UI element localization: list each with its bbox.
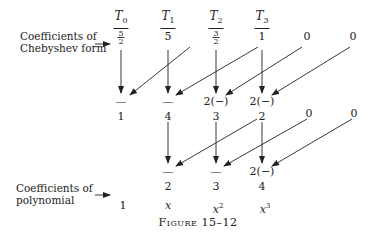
op-double-subtract: 2(−) <box>250 166 275 178</box>
poly-coef-3: 4 <box>259 181 266 193</box>
power-label-x3: x3 <box>260 200 271 216</box>
op-subtract: — <box>211 166 222 178</box>
stage1-result-0: 1 <box>118 111 125 123</box>
stage1-result-1: 4 <box>165 111 172 123</box>
power-label-x: x <box>165 200 171 212</box>
op-subtract: — <box>116 96 127 108</box>
power-label-1: 1 <box>120 200 127 212</box>
header-t0: T0 <box>113 10 128 29</box>
label-line: Coefficients of <box>20 30 106 42</box>
stage1-result-2: 3 <box>213 111 220 123</box>
op-double-subtract: 2(−) <box>204 96 229 108</box>
header-t1: T1 <box>160 10 175 29</box>
stage1-result-3: 2 <box>259 111 266 123</box>
poly-coef-1: 2 <box>165 181 172 193</box>
power-label-x2: x2 <box>213 200 224 216</box>
cheb-coef-3: 1 <box>259 31 266 43</box>
cheb-coef-0: 52 <box>117 30 124 47</box>
caption-prefix: Figure <box>159 216 198 229</box>
header-t2: T2 <box>208 10 223 29</box>
chebyshev-coefficients-label: Coefficients of Chebyshev form <box>20 30 106 54</box>
cheb-coef-1: 5 <box>165 31 172 43</box>
cheb-coef-4: 0 <box>304 31 311 43</box>
polynomial-coefficients-label: Coefficients of polynomial <box>16 182 93 206</box>
figure-caption: Figure 15–12 <box>159 216 238 229</box>
cheb-coef-5: 0 <box>350 31 357 43</box>
cheb-coef-2: 32 <box>212 30 219 47</box>
stage1-result-5: 0 <box>351 108 358 120</box>
label-line: Chebyshev form <box>20 42 106 54</box>
poly-coef-2: 3 <box>213 181 220 193</box>
header-t3: T3 <box>254 10 269 29</box>
label-line: Coefficients of <box>16 182 93 194</box>
op-subtract: — <box>163 166 174 178</box>
label-line: polynomial <box>16 194 93 206</box>
caption-number: 15–12 <box>201 216 237 229</box>
op-subtract: — <box>163 96 174 108</box>
stage1-result-4: 0 <box>306 108 313 120</box>
op-double-subtract: 2(−) <box>250 96 275 108</box>
